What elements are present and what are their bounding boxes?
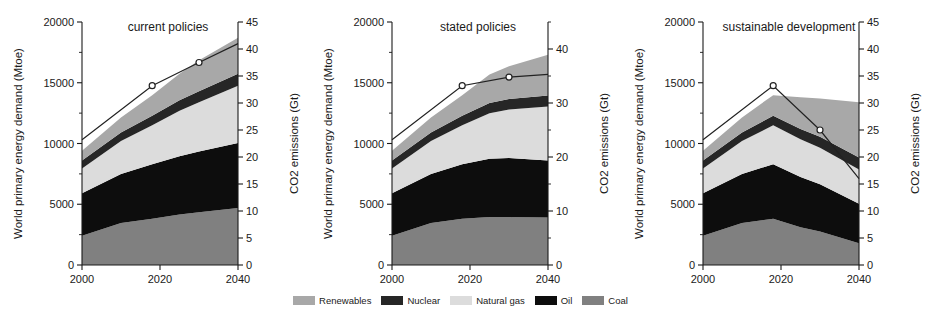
y-tick-label-left: 20000 xyxy=(353,16,384,28)
legend-label: Oil xyxy=(561,295,573,306)
y-tick-label-right: 35 xyxy=(867,70,879,82)
y-axis-label-right: CO2 emissions (Gt) xyxy=(598,93,610,194)
y-tick-label-left: 0 xyxy=(689,259,695,271)
legend-label: Nuclear xyxy=(407,295,440,306)
y-tick-label-right: 25 xyxy=(867,124,879,136)
y-tick-label-right: 10 xyxy=(867,205,879,217)
figure-root: 0500010000150002000005101520253035404520… xyxy=(0,0,931,319)
legend-item-coal: Coal xyxy=(582,295,628,306)
panel-title: stated policies xyxy=(440,20,516,34)
legend-item-renewables: Renewables xyxy=(293,295,371,306)
y-tick-label-right: 45 xyxy=(246,16,258,28)
y-tick-label-right: 25 xyxy=(246,124,258,136)
y-tick-label-right: 40 xyxy=(246,43,258,55)
co2-emissions-marker xyxy=(770,83,776,89)
y-axis-label-left: World primary energy demand (Mtoe) xyxy=(12,48,24,239)
y-tick-label-left: 10000 xyxy=(664,138,695,150)
y-tick-label-right: 10 xyxy=(246,205,258,217)
x-tick-label: 2040 xyxy=(847,273,871,285)
legend-swatch-oil xyxy=(535,296,557,305)
x-tick-label: 2020 xyxy=(769,273,793,285)
y-tick-label-left: 15000 xyxy=(353,77,384,89)
y-tick-label-right: 5 xyxy=(867,232,873,244)
co2-emissions-marker xyxy=(506,74,512,80)
stacked-areas-0 xyxy=(82,38,238,265)
y-tick-label-right: 0 xyxy=(556,259,562,271)
chart-svg-1: 0500010000150002000001020304020002020204… xyxy=(310,0,620,290)
chart-panel-current-policies: 0500010000150002000005101520253035404520… xyxy=(0,0,310,290)
legend-swatch-natural-gas xyxy=(450,296,472,305)
legend-label: Coal xyxy=(608,295,628,306)
chart-panel-sustainable-development: 0500010000150002000005101520253035404520… xyxy=(621,0,931,290)
legend-item-nuclear: Nuclear xyxy=(381,295,440,306)
y-tick-label-right: 0 xyxy=(246,259,252,271)
legend-item-natural-gas: Natural gas xyxy=(450,295,525,306)
co2-emissions-marker xyxy=(817,127,823,133)
legend-item-oil: Oil xyxy=(535,295,573,306)
y-tick-label-left: 0 xyxy=(378,259,384,271)
legend-swatch-coal xyxy=(582,296,604,305)
y-tick-label-left: 0 xyxy=(68,259,74,271)
x-tick-label: 2040 xyxy=(226,273,250,285)
chart-panel-stated-policies: 0500010000150002000001020304020002020204… xyxy=(310,0,620,290)
legend-swatch-nuclear xyxy=(381,296,403,305)
y-tick-label-right: 40 xyxy=(556,43,568,55)
y-tick-label-right: 35 xyxy=(246,70,258,82)
x-tick-label: 2000 xyxy=(380,273,404,285)
chart-svg-0: 0500010000150002000005101520253035404520… xyxy=(0,0,310,290)
y-tick-label-right: 5 xyxy=(246,232,252,244)
y-tick-label-left: 15000 xyxy=(43,77,74,89)
stacked-areas-2 xyxy=(703,95,859,265)
y-axis-label-right: CO2 emissions (Gt) xyxy=(909,93,921,194)
legend-label: Renewables xyxy=(319,295,371,306)
y-tick-label-left: 5000 xyxy=(671,198,695,210)
y-tick-label-right: 30 xyxy=(867,97,879,109)
y-tick-label-left: 10000 xyxy=(43,138,74,150)
y-tick-label-left: 5000 xyxy=(360,198,384,210)
y-tick-label-right: 15 xyxy=(867,178,879,190)
legend-swatch-renewables xyxy=(293,296,315,305)
co2-emissions-marker xyxy=(196,60,202,66)
co2-emissions-marker xyxy=(459,83,465,89)
y-tick-label-right: 40 xyxy=(867,43,879,55)
stacked-areas-1 xyxy=(392,55,548,265)
y-tick-label-left: 20000 xyxy=(664,16,695,28)
panel-title: sustainable development xyxy=(723,20,856,34)
x-tick-label: 2040 xyxy=(536,273,560,285)
y-tick-label-left: 10000 xyxy=(353,138,384,150)
legend-label: Natural gas xyxy=(476,295,525,306)
x-tick-label: 2020 xyxy=(458,273,482,285)
y-tick-label-right: 20 xyxy=(867,151,879,163)
chart-svg-2: 0500010000150002000005101520253035404520… xyxy=(621,0,931,290)
y-tick-label-right: 45 xyxy=(867,16,879,28)
y-tick-label-left: 15000 xyxy=(664,77,695,89)
y-tick-label-right: 30 xyxy=(556,97,568,109)
x-tick-label: 2020 xyxy=(148,273,172,285)
y-tick-label-right: 20 xyxy=(246,151,258,163)
chart-legend: RenewablesNuclearNatural gasOilCoal xyxy=(0,289,931,311)
x-tick-label: 2000 xyxy=(691,273,715,285)
y-tick-label-right: 10 xyxy=(556,205,568,217)
y-tick-label-right: 15 xyxy=(246,178,258,190)
y-axis-label-left: World primary energy demand (Mtoe) xyxy=(322,48,334,239)
y-axis-label-right: CO2 emissions (Gt) xyxy=(288,93,300,194)
x-tick-label: 2000 xyxy=(70,273,94,285)
y-tick-label-right: 0 xyxy=(867,259,873,271)
panel-title: current policies xyxy=(128,20,209,34)
y-tick-label-left: 20000 xyxy=(43,16,74,28)
y-axis-label-left: World primary energy demand (Mtoe) xyxy=(633,48,645,239)
y-tick-label-left: 5000 xyxy=(50,198,74,210)
y-tick-label-right: 30 xyxy=(246,97,258,109)
co2-emissions-marker xyxy=(149,83,155,89)
y-tick-label-right: 20 xyxy=(556,151,568,163)
